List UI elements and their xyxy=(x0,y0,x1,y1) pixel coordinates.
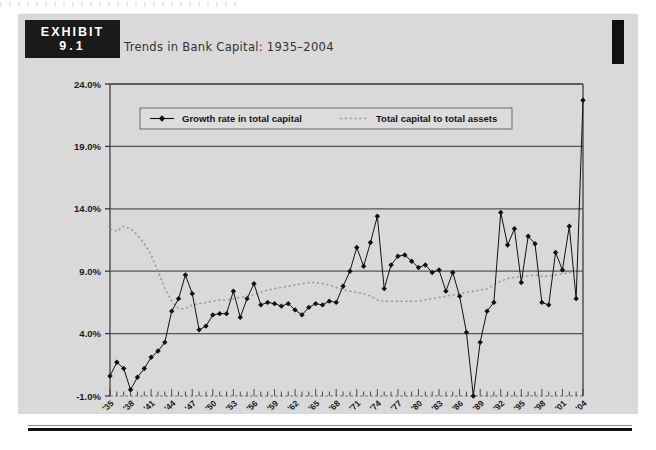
x-axis-labels: '35'38'41'44'47'50'53'56'59'62'65'68'71'… xyxy=(100,398,588,413)
data-point-marker xyxy=(313,301,318,306)
data-point-marker xyxy=(334,300,339,305)
x-axis-tick-label: '98 xyxy=(532,398,547,413)
data-point-marker xyxy=(279,303,284,308)
y-axis-tick-label: 4.0% xyxy=(79,328,101,339)
series-growth-rate-in-total-capital xyxy=(107,98,585,399)
x-axis-tick-label: '62 xyxy=(285,398,300,413)
data-point-marker xyxy=(251,281,256,286)
data-point-marker xyxy=(443,288,448,293)
x-axis-tick-label: '41 xyxy=(142,398,157,413)
data-point-marker xyxy=(580,98,585,103)
footer-rule-thick xyxy=(28,428,632,431)
y-axis-tick-label: 14.0% xyxy=(74,203,101,214)
data-point-marker xyxy=(573,296,578,301)
data-point-marker xyxy=(272,301,277,306)
data-point-marker xyxy=(450,270,455,275)
data-point-marker xyxy=(128,387,133,392)
x-axis-tick-label: '95 xyxy=(512,398,527,413)
plot-frame xyxy=(110,84,583,396)
data-point-marker xyxy=(196,327,201,332)
data-point-marker xyxy=(347,269,352,274)
data-point-marker xyxy=(512,226,517,231)
y-axis-tick-label: 19.0% xyxy=(74,141,101,152)
data-point-marker xyxy=(354,245,359,250)
data-point-marker xyxy=(203,323,208,328)
data-point-marker xyxy=(436,267,441,272)
data-point-marker xyxy=(258,302,263,307)
x-axis-tick-label: '38 xyxy=(121,398,136,413)
data-point-marker xyxy=(183,272,188,277)
legend-label-capital-ratio: Total capital to total assets xyxy=(376,113,497,124)
x-axis-tick-label: '74 xyxy=(368,398,383,413)
data-point-marker xyxy=(546,302,551,307)
x-axis-tick-label: '59 xyxy=(265,398,280,413)
data-point-marker xyxy=(368,240,373,245)
chart-legend: Growth rate in total capitalTotal capita… xyxy=(140,108,512,129)
data-point-marker xyxy=(217,311,222,316)
x-axis-tick-label: '01 xyxy=(553,398,568,413)
data-point-marker xyxy=(107,373,112,378)
x-axis-tick-label: '53 xyxy=(224,398,239,413)
data-point-marker xyxy=(539,300,544,305)
series-line-dotted xyxy=(110,226,583,308)
chart-container: -1.0%4.0%9.0%14.0%19.0%24.0% '35'38'41'4… xyxy=(0,0,656,450)
data-point-marker xyxy=(553,250,558,255)
gridlines xyxy=(110,84,583,396)
x-axis-tick-label: '77 xyxy=(388,398,403,413)
data-point-marker xyxy=(375,214,380,219)
x-axis-ticks xyxy=(110,389,583,396)
legend-label-growth-rate: Growth rate in total capital xyxy=(182,113,302,124)
data-point-marker xyxy=(169,308,174,313)
data-point-marker xyxy=(471,393,476,398)
data-point-marker xyxy=(567,224,572,229)
data-point-marker xyxy=(244,296,249,301)
y-axis-tick-label: 24.0% xyxy=(74,79,101,90)
y-axis-labels: -1.0%4.0%9.0%14.0%19.0%24.0% xyxy=(74,79,110,402)
data-point-marker xyxy=(382,286,387,291)
x-axis-tick-label: '56 xyxy=(244,398,259,413)
series-line-solid xyxy=(110,100,583,396)
y-axis-tick-label: 9.0% xyxy=(79,266,101,277)
data-point-marker xyxy=(464,330,469,335)
data-point-marker xyxy=(361,264,366,269)
x-axis-tick-label: '65 xyxy=(306,398,321,413)
x-axis-tick-label: '71 xyxy=(347,398,362,413)
bank-capital-line-chart: -1.0%4.0%9.0%14.0%19.0%24.0% '35'38'41'4… xyxy=(0,0,656,450)
data-point-marker xyxy=(505,242,510,247)
x-axis-tick-label: '35 xyxy=(100,398,115,413)
x-axis-tick-label: '86 xyxy=(450,398,465,413)
x-axis-tick-label: '83 xyxy=(429,398,444,413)
y-axis-tick-label: -1.0% xyxy=(76,391,101,402)
x-axis-tick-label: '80 xyxy=(409,398,424,413)
data-point-marker xyxy=(320,302,325,307)
data-point-marker xyxy=(265,300,270,305)
data-point-marker xyxy=(176,296,181,301)
x-axis-tick-label: '89 xyxy=(471,398,486,413)
series-total-capital-to-total-assets xyxy=(110,226,583,308)
footer-rule-thin xyxy=(28,425,632,426)
x-axis-tick-label: '92 xyxy=(491,398,506,413)
data-point-marker xyxy=(224,311,229,316)
data-point-marker xyxy=(477,340,482,345)
x-axis-tick-label: '47 xyxy=(183,398,198,413)
data-point-marker xyxy=(238,315,243,320)
page-margin-bottom xyxy=(0,414,656,450)
data-point-marker xyxy=(560,267,565,272)
x-axis-tick-label: '68 xyxy=(327,398,342,413)
x-axis-tick-label: '50 xyxy=(203,398,218,413)
data-point-marker xyxy=(519,280,524,285)
data-point-marker xyxy=(498,210,503,215)
x-axis-tick-label: '44 xyxy=(162,398,177,413)
data-point-marker xyxy=(327,298,332,303)
data-point-marker xyxy=(340,283,345,288)
data-point-marker xyxy=(231,288,236,293)
x-axis-tick-label: '04 xyxy=(573,398,588,413)
data-point-marker xyxy=(190,291,195,296)
data-point-marker xyxy=(210,312,215,317)
